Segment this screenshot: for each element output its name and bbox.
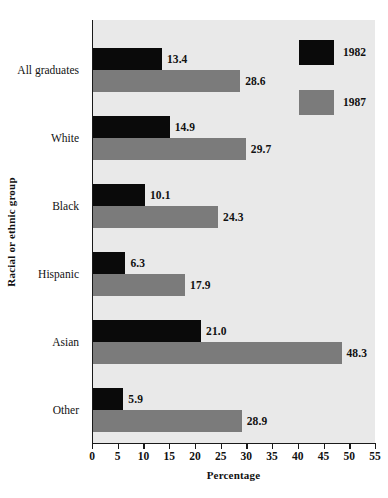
bar-value-asian-1987: 48.3: [347, 342, 368, 364]
legend-label-1987: 1987: [343, 90, 366, 115]
bar-all-graduates-1987: [93, 70, 240, 92]
x-tick-0: [92, 443, 93, 449]
x-tick-40: [298, 443, 299, 449]
bar-chart-figure: 13.428.614.929.710.124.36.317.921.048.35…: [0, 0, 388, 498]
bar-value-asian-1982: 21.0: [206, 320, 227, 342]
x-tick-label-55: 55: [355, 450, 388, 462]
x-tick-20: [195, 443, 196, 449]
bar-value-other-1987: 28.9: [247, 410, 268, 432]
bar-value-black-1987: 24.3: [223, 206, 244, 228]
bar-other-1987: [93, 410, 242, 432]
bar-value-hispanic-1982: 6.3: [130, 252, 145, 274]
plot-area: 13.428.614.929.710.124.36.317.921.048.35…: [92, 20, 375, 443]
legend-item-1987: 1987: [299, 90, 388, 116]
bar-value-white-1982: 14.9: [175, 116, 196, 138]
bar-black-1987: [93, 206, 218, 228]
x-tick-25: [221, 443, 222, 449]
bar-asian-1987: [93, 342, 342, 364]
x-axis-line: [92, 443, 375, 444]
legend-item-1982: 1982: [299, 40, 388, 66]
bar-white-1982: [93, 116, 170, 138]
bar-all-graduates-1982: [93, 48, 162, 70]
bar-hispanic-1982: [93, 252, 125, 274]
bar-value-all-graduates-1982: 13.4: [167, 48, 188, 70]
bar-white-1987: [93, 138, 246, 160]
y-axis-title: Racial or ethnic group: [5, 177, 17, 286]
chart-legend: 19821987: [299, 40, 388, 125]
bar-value-black-1982: 10.1: [150, 184, 171, 206]
bar-asian-1982: [93, 320, 201, 342]
legend-label-1982: 1982: [343, 40, 366, 65]
x-tick-50: [349, 443, 350, 449]
legend-swatch-1982: [299, 40, 334, 65]
bar-value-white-1987: 29.7: [251, 138, 272, 160]
bar-value-hispanic-1987: 17.9: [190, 274, 211, 296]
bar-value-other-1982: 5.9: [128, 388, 143, 410]
x-tick-30: [246, 443, 247, 449]
legend-swatch-1987: [299, 90, 334, 115]
x-tick-10: [143, 443, 144, 449]
x-tick-35: [272, 443, 273, 449]
bar-value-all-graduates-1987: 28.6: [245, 70, 266, 92]
bar-black-1982: [93, 184, 145, 206]
x-tick-5: [118, 443, 119, 449]
y-axis-title-wrapper: Racial or ethnic group: [0, 20, 22, 443]
x-tick-55: [375, 443, 376, 449]
x-tick-15: [169, 443, 170, 449]
x-tick-45: [324, 443, 325, 449]
bar-hispanic-1987: [93, 274, 185, 296]
bar-other-1982: [93, 388, 123, 410]
x-axis-title: Percentage: [92, 469, 375, 481]
